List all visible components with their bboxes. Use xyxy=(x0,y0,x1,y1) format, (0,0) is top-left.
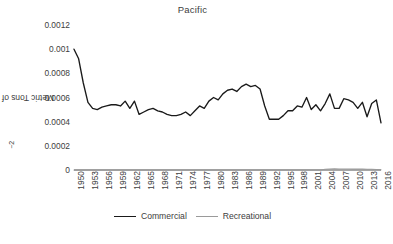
x-axis-tick-label: 2010 xyxy=(356,171,365,190)
x-axis-tick-label: 1953 xyxy=(91,171,100,190)
y-axis-tick-label: 0.0006 xyxy=(44,93,70,103)
x-axis-tick-label: 1974 xyxy=(189,171,198,190)
chart-legend: CommercialRecreational xyxy=(0,211,385,221)
x-axis-tick-label: 1989 xyxy=(259,171,268,190)
y-axis-tick-labels: 00.00020.00040.00060.00080.0010.0012 xyxy=(16,0,72,244)
x-axis-tick-label: 1998 xyxy=(300,171,309,190)
x-axis-tick-label: 2007 xyxy=(342,171,351,190)
x-axis-tick-label: 1995 xyxy=(287,171,296,190)
legend-item-label: Commercial xyxy=(141,211,187,221)
x-axis-tick-label: 1983 xyxy=(231,171,240,190)
x-axis-tick-label: 1977 xyxy=(203,171,212,190)
x-axis-tick-label: 1959 xyxy=(119,171,128,190)
y-axis-title: Metric Tons of Landings km−2 xyxy=(2,25,16,170)
series-line-commercial xyxy=(74,49,381,123)
x-axis-tick-label: 1956 xyxy=(105,171,114,190)
y-axis-tick-label: 0 xyxy=(65,165,70,175)
legend-line-icon xyxy=(196,216,218,217)
x-axis-tick-label: 2004 xyxy=(328,171,337,190)
legend-line-icon xyxy=(114,216,136,217)
y-axis-tick-label: 0.0012 xyxy=(44,20,70,30)
legend-item[interactable]: Commercial xyxy=(114,211,187,221)
plot-svg xyxy=(74,25,381,170)
legend-item-label: Recreational xyxy=(223,211,271,221)
x-axis-tick-labels: 1950195319561959196219651968197119741977… xyxy=(74,171,381,211)
plot-area xyxy=(74,25,381,170)
x-axis-tick-label: 2001 xyxy=(314,171,323,190)
x-axis-tick-label: 1965 xyxy=(147,171,156,190)
x-axis-tick-label: 2016 xyxy=(384,171,393,190)
x-axis-tick-label: 1992 xyxy=(273,171,282,190)
x-axis-tick-label: 1986 xyxy=(245,171,254,190)
y-axis-tick-label: 0.0002 xyxy=(44,141,70,151)
x-axis-tick-label: 1968 xyxy=(161,171,170,190)
x-axis-tick-label: 1950 xyxy=(77,171,86,190)
x-axis-tick-label: 1971 xyxy=(175,171,184,190)
y-axis-tick-label: 0.001 xyxy=(49,44,70,54)
legend-item[interactable]: Recreational xyxy=(196,211,271,221)
x-axis-tick-label: 2013 xyxy=(370,171,379,190)
y-axis-tick-label: 0.0004 xyxy=(44,117,70,127)
x-axis-tick-label: 1980 xyxy=(217,171,226,190)
x-axis-tick-label: 1962 xyxy=(133,171,142,190)
y-axis-tick-label: 0.0008 xyxy=(44,68,70,78)
